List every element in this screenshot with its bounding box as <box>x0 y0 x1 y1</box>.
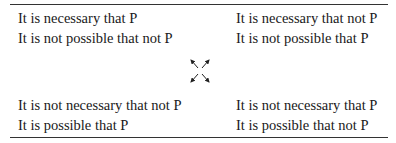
possible-not-p: It is possible that not P <box>236 115 377 135</box>
necessary-not-p: It is necessary that not P <box>236 8 377 28</box>
bottom-rule <box>10 137 388 138</box>
not-necessary-not-p: It is not necessary that not P <box>18 95 182 115</box>
top-rule <box>10 4 388 5</box>
not-necessary-p: It is not necessary that P <box>236 95 377 115</box>
top-right-cell: It is necessary that not P It is not pos… <box>236 8 377 48</box>
bottom-right-cell: It is not necessary that P It is possibl… <box>236 95 377 135</box>
not-possible-p: It is not possible that P <box>236 28 377 48</box>
possible-p: It is possible that P <box>18 115 182 135</box>
top-left-cell: It is necessary that P It is not possibl… <box>18 8 173 48</box>
four-diagonal-arrows-icon <box>188 55 212 87</box>
necessary-p: It is necessary that P <box>18 8 173 28</box>
bottom-left-cell: It is not necessary that not P It is pos… <box>18 95 182 135</box>
not-possible-not-p: It is not possible that not P <box>18 28 173 48</box>
